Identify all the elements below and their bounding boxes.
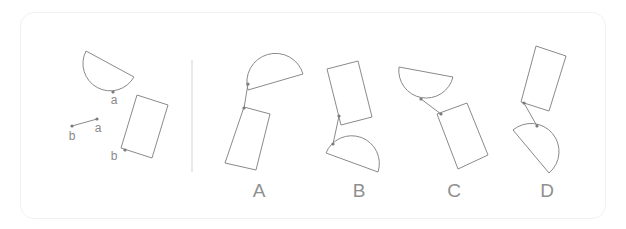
option-a-point-b [242, 106, 245, 109]
option-c-segment [421, 99, 441, 114]
reference-segment-point-b [70, 124, 73, 127]
option-d-point-a [535, 124, 538, 127]
option-c-point-a [419, 97, 422, 100]
option-d-point-b [522, 101, 525, 104]
option-b[interactable]: B [326, 61, 379, 201]
option-d-semicircle [513, 123, 559, 173]
option-c-point-b [439, 112, 442, 115]
diagram-canvas: a b a b A B C [0, 0, 626, 229]
option-a-segment [244, 84, 248, 108]
reference-rectangle [121, 95, 168, 158]
reference-segment-label-a: a [95, 121, 102, 135]
reference-figure: a b a b [69, 51, 168, 163]
option-c-semicircle [399, 67, 453, 98]
option-a-point-a [246, 82, 249, 85]
option-a-rectangle [225, 107, 270, 170]
reference-semicircle-label-a: a [111, 93, 118, 107]
reference-segment-label-b: b [69, 129, 76, 143]
reference-rectangle-point-b [123, 148, 126, 151]
option-b-label[interactable]: B [353, 180, 366, 201]
option-d-rectangle [521, 46, 566, 111]
option-a-label[interactable]: A [253, 180, 266, 201]
option-d[interactable]: D [513, 46, 566, 201]
reference-rectangle-label-b: b [111, 149, 118, 163]
option-b-point-b [337, 114, 340, 117]
option-b-rectangle [327, 61, 372, 125]
option-a[interactable]: A [225, 53, 303, 201]
option-b-point-a [331, 142, 334, 145]
reference-semicircle [83, 51, 134, 91]
option-c-rectangle [437, 103, 488, 169]
option-a-semicircle [247, 53, 303, 90]
option-c-label[interactable]: C [447, 180, 461, 201]
option-c[interactable]: C [399, 67, 488, 201]
option-d-label[interactable]: D [540, 180, 554, 201]
reference-segment [72, 119, 97, 126]
